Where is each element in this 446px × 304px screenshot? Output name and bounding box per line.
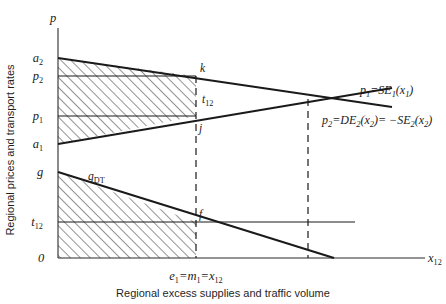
lower-transport-cost-region (58, 172, 196, 258)
x-axis-title: Regional excess supplies and traffic vol… (116, 287, 330, 299)
figure-canvas: p a2 p2 p1 a1 g t12 0 k t12 j f qDT p1=S… (0, 0, 446, 304)
y-tick-a2: a2 (33, 51, 43, 67)
y-axis-title: Regional prices and transport rates (4, 64, 16, 236)
x-axis-symbol: x12 (427, 251, 442, 267)
spatial-equilibrium-figure: p a2 p2 p1 a1 g t12 0 k t12 j f qDT p1=S… (0, 0, 446, 304)
y-tick-p1: p1 (32, 109, 43, 125)
bottom-equation: e1=m1=x12 (169, 269, 222, 285)
upper-welfare-region (58, 58, 196, 144)
point-label-t12-gap: t12 (202, 93, 213, 108)
y-tick-g: g (37, 165, 43, 179)
point-label-j: j (197, 122, 202, 135)
equation-SE1: p1=SE1(x1) (359, 83, 413, 99)
y-tick-p2: p2 (32, 69, 43, 85)
y-axis-symbol: p (49, 11, 56, 25)
point-label-k: k (200, 62, 206, 74)
equation-DE2: p2=DE2(x2)= −SE2(x2) (321, 113, 432, 129)
y-tick-zero: 0 (38, 251, 45, 265)
y-tick-a1: a1 (33, 137, 43, 153)
point-label-f: f (199, 208, 204, 221)
y-tick-t12: t12 (31, 215, 43, 231)
